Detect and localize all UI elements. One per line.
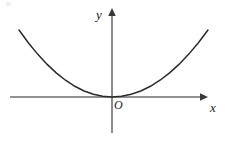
origin-label: O [114, 99, 123, 111]
y-axis-label: y [96, 8, 102, 21]
graph-canvas [0, 0, 229, 141]
parabola-curve [19, 30, 208, 97]
x-axis-arrowhead [200, 93, 208, 101]
x-axis-label: x [210, 101, 216, 114]
y-axis-arrowhead [108, 8, 116, 16]
parabola-figure: y x O [0, 0, 229, 141]
